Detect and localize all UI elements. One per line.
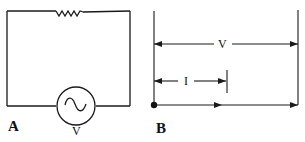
current-label: I <box>184 74 188 88</box>
ac-source-icon <box>57 87 95 125</box>
panel-label-b: B <box>156 120 166 136</box>
panel-a-circuit: V A <box>7 11 130 138</box>
source-voltage-label: V <box>72 124 81 138</box>
resistor-icon <box>56 11 83 16</box>
circuit-wire-top-right <box>83 11 130 12</box>
voltage-label: V <box>218 37 227 51</box>
current-vector: I <box>154 70 227 93</box>
voltage-vector: V <box>154 37 298 51</box>
figure-canvas: V A V I B <box>0 0 305 142</box>
baseline-vector <box>151 102 298 108</box>
panel-label-a: A <box>8 118 19 134</box>
origin-dot <box>151 102 157 108</box>
panel-b-phasor: V I B <box>151 10 298 136</box>
